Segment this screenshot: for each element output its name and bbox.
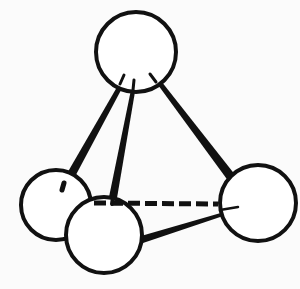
- bond-front-right-dashed: [94, 203, 218, 204]
- atom-base-front: [66, 197, 142, 273]
- atom-apex: [96, 12, 176, 92]
- stub-apex-front: [133, 80, 134, 90]
- stub-left-top: [62, 183, 64, 190]
- molecule-diagram: [0, 0, 300, 289]
- bond-apex-right: [150, 72, 236, 182]
- atom-base-right: [220, 165, 296, 241]
